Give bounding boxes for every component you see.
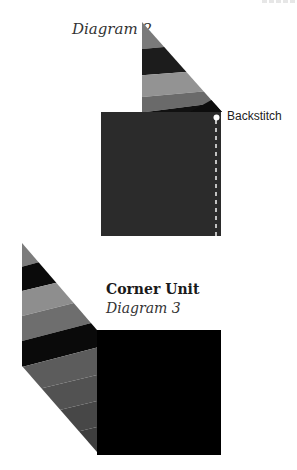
diagram-3-striped-shape (10, 230, 110, 470)
diagram-2-striped-triangle (130, 10, 240, 120)
corner-unit-heading: Corner Unit (106, 281, 199, 297)
backstitch-start-dot (214, 115, 220, 121)
backstitch-label: Backstitch (227, 109, 282, 123)
diagram-2-square (101, 112, 221, 236)
diagram-3-title: Diagram 3 (106, 300, 181, 316)
diagram-3-square (97, 330, 221, 455)
quilt-diagrams (0, 0, 297, 470)
